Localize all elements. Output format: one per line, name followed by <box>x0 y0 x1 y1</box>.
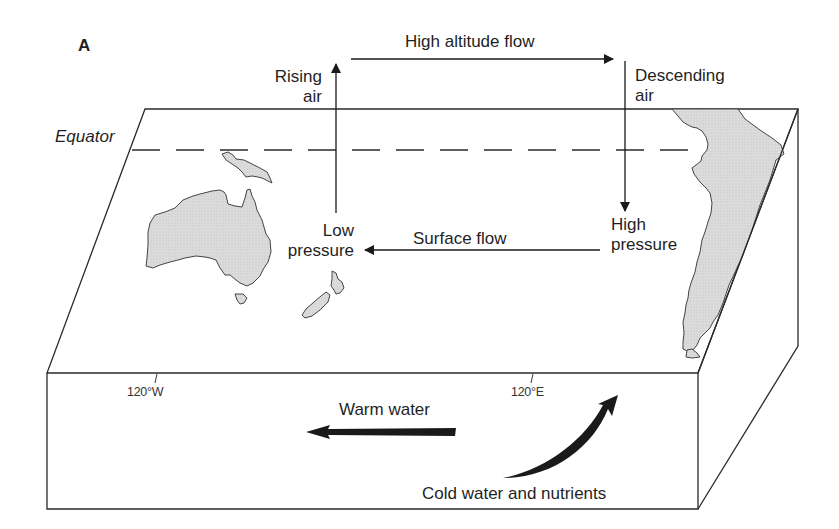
surface-flow-label: Surface flow <box>413 229 507 248</box>
low-pressure-label-line2: pressure <box>268 241 354 260</box>
warm-water-arrow <box>306 425 456 439</box>
tasmania-shape <box>235 294 247 304</box>
south-america-shape <box>672 109 784 351</box>
high-pressure-label-line1: High <box>611 215 646 234</box>
low-pressure-label-line1: Low <box>268 221 354 240</box>
cold-water-upwelling-arrow <box>503 395 618 478</box>
equator-label: Equator <box>55 127 115 146</box>
new-zealand-north-shape <box>331 271 344 294</box>
high-pressure-label-line2: pressure <box>611 235 677 254</box>
atmospheric-arrows <box>336 59 625 250</box>
longitude-120w-label: 120°W <box>127 385 163 399</box>
australia-shape <box>146 189 271 286</box>
tick-120w <box>155 374 157 383</box>
tick-120e <box>531 374 533 383</box>
new-guinea-shape <box>222 152 272 183</box>
longitude-120e-label: 120°E <box>511 385 544 399</box>
descending-air-label-line1: Descending <box>635 66 725 85</box>
new-zealand-south-shape <box>302 292 330 318</box>
cold-water-label: Cold water and nutrients <box>422 484 606 503</box>
descending-air-label-line2: air <box>635 86 654 105</box>
rising-air-label-line2: air <box>262 87 322 106</box>
warm-water-label: Warm water <box>339 400 430 419</box>
high-altitude-flow-label: High altitude flow <box>405 32 534 51</box>
rising-air-label-line1: Rising <box>262 67 322 86</box>
tierra-del-fuego-shape <box>686 349 700 358</box>
panel-label: A <box>78 36 90 55</box>
